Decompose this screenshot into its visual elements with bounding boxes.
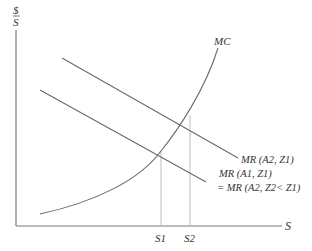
mr-lower-label-line2: = MR (A2, Z2< Z1)	[217, 182, 301, 194]
mc-label: MC	[213, 35, 231, 47]
y-axis-label-numerator: $	[13, 4, 19, 16]
mr-lower-label-line1: MR (A1, Z1)	[218, 168, 272, 180]
x-axis-label: S	[285, 219, 291, 233]
mr-lower-curve	[40, 90, 206, 182]
diagram-canvas: $ S S MC MR (A2, Z1) MR (A1, Z1) = MR (A…	[0, 0, 312, 251]
mr-upper-label: MR (A2, Z1)	[240, 154, 294, 166]
mr-upper-curve	[62, 58, 238, 158]
y-axis-label-denominator: S	[13, 16, 19, 28]
x-tick-s1: S1	[155, 232, 166, 244]
x-tick-s2: S2	[184, 232, 196, 244]
